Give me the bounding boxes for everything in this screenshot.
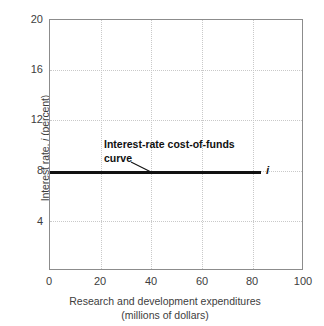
y-tick-label-8: 8: [17, 165, 43, 176]
x-axis-title-line1: Research and development expenditures: [69, 295, 260, 307]
curve-label-i: i: [266, 164, 269, 176]
x-tick-label-20: 20: [80, 276, 120, 287]
y-tick-label-4: 4: [17, 216, 43, 227]
x-tick-label-100: 100: [283, 276, 323, 287]
gridline-h-12: [50, 120, 302, 121]
x-tick-label-80: 80: [232, 276, 272, 287]
y-tick-label-12: 12: [17, 114, 43, 125]
y-tick-label-20: 20: [17, 14, 43, 25]
cost-of-funds-curve: [50, 171, 261, 174]
x-axis-title-line2: (millions of dollars): [121, 309, 209, 321]
y-tick-label-16: 16: [17, 64, 43, 75]
chart-figure: Interest rate, i (percent) 20 16 12 8 4 …: [0, 0, 324, 326]
x-tick-label-0: 0: [29, 276, 69, 287]
x-axis-title: Research and development expenditures(mi…: [20, 294, 310, 322]
x-tick-label-60: 60: [182, 276, 222, 287]
gridline-h-16: [50, 70, 302, 71]
curve-annotation: Interest-rate cost-of-fundscurve: [104, 138, 235, 165]
gridline-h-4: [50, 221, 302, 222]
gridline-v-20: [101, 20, 102, 269]
curve-annotation-line2: curve: [104, 152, 132, 164]
gridline-v-80: [253, 20, 254, 269]
curve-annotation-line1: Interest-rate cost-of-funds: [104, 138, 235, 150]
x-tick-label-40: 40: [131, 276, 171, 287]
